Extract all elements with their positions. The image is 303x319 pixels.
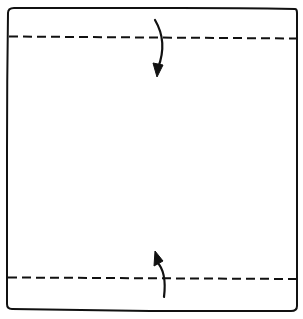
fold-up-arrow-icon [154, 251, 165, 297]
origami-diagram [0, 0, 303, 319]
top-fold-line [9, 37, 296, 39]
bottom-fold-line [8, 278, 296, 280]
fold-down-arrow-icon [153, 20, 163, 77]
diagram-canvas [0, 0, 303, 319]
paper-square [7, 8, 297, 311]
